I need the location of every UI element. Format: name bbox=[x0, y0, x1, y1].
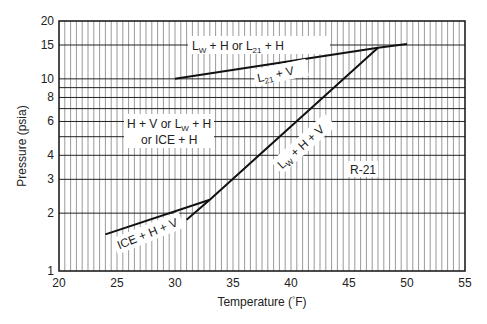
y-tick-label: 10 bbox=[41, 72, 55, 86]
x-axis-title: Temperature (°F) bbox=[217, 295, 306, 309]
y-axis-title: Pressure (psia) bbox=[15, 105, 29, 186]
y-tick-label: 4 bbox=[47, 148, 54, 162]
region-label-r21: R-21 bbox=[350, 163, 376, 177]
region-label-top: LW + H or L21 + H bbox=[192, 39, 284, 55]
x-tick-label: 25 bbox=[110, 276, 124, 290]
x-axis-ticks: 2025303540455055 bbox=[52, 276, 472, 290]
y-axis-ticks: 123468101520 bbox=[41, 14, 55, 278]
grid bbox=[59, 21, 465, 271]
y-tick-label: 2 bbox=[47, 206, 54, 220]
y-tick-label: 3 bbox=[47, 172, 54, 186]
region-label-left-line1: H + V or LW + H bbox=[127, 117, 211, 133]
x-tick-label: 20 bbox=[52, 276, 66, 290]
region-label-left-line2: or ICE + H bbox=[141, 133, 197, 147]
x-tick-label: 45 bbox=[342, 276, 356, 290]
x-tick-label: 30 bbox=[168, 276, 182, 290]
region-label-lw-h-v: LW + H + V bbox=[275, 122, 329, 173]
x-tick-label: 35 bbox=[226, 276, 240, 290]
y-tick-label: 20 bbox=[41, 14, 55, 28]
x-tick-label: 55 bbox=[458, 276, 472, 290]
y-tick-label: 15 bbox=[41, 38, 55, 52]
y-tick-label: 6 bbox=[47, 114, 54, 128]
x-tick-label: 40 bbox=[284, 276, 298, 290]
y-tick-label: 8 bbox=[47, 90, 54, 104]
x-tick-label: 50 bbox=[400, 276, 414, 290]
phase-diagram-chart: 123468101520 2025303540455055 LW + H or … bbox=[0, 0, 487, 324]
